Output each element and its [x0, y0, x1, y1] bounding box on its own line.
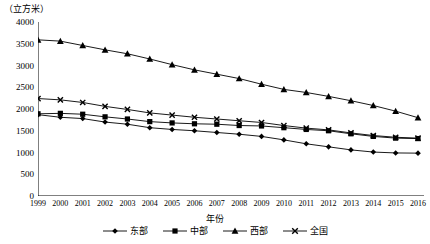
- y-axis-tick-label: 2000: [4, 105, 34, 114]
- chart-legend: 东部中部西部全国: [0, 226, 430, 236]
- x-axis-tick-label: 2009: [254, 199, 270, 208]
- x-axis-tick-label: 2010: [276, 199, 292, 208]
- data-point-diamond: [236, 131, 242, 137]
- data-point-diamond: [214, 130, 220, 136]
- x-axis-tick-label: 2015: [388, 199, 404, 208]
- x-axis-tick-label: 2000: [52, 199, 68, 208]
- x-axis-tick-label: 2014: [365, 199, 381, 208]
- legend-item-中部[interactable]: 中部: [162, 226, 208, 236]
- series-西部: [38, 36, 421, 120]
- x-axis-tick-label: 2012: [321, 199, 337, 208]
- data-point-diamond: [370, 149, 376, 155]
- y-axis-tick-label: 1500: [4, 126, 34, 135]
- legend-label: 全国: [310, 227, 328, 236]
- legend-label: 西部: [250, 227, 268, 236]
- y-axis-tick-label: 3000: [4, 61, 34, 70]
- y-axis-tick-label: 3500: [4, 39, 34, 48]
- legend-label: 中部: [190, 227, 208, 236]
- data-point-diamond: [348, 147, 354, 153]
- series-全国: [38, 96, 421, 141]
- data-point-diamond: [303, 141, 309, 147]
- legend-marker-square-icon: [162, 226, 188, 236]
- data-point-diamond: [281, 137, 287, 143]
- series-东部: [38, 112, 421, 156]
- data-point-square: [58, 111, 63, 116]
- legend-marker-cross-icon: [282, 226, 308, 236]
- x-axis-tick-label: 2003: [119, 199, 135, 208]
- data-point-square: [147, 119, 152, 124]
- data-point-square: [38, 111, 41, 116]
- y-axis-tick-label: 4000: [4, 18, 34, 27]
- data-point-square: [172, 228, 177, 233]
- data-point-diamond: [147, 125, 153, 131]
- plot-svg: [38, 22, 424, 196]
- data-point-diamond: [326, 144, 332, 150]
- series-line: [38, 113, 418, 138]
- data-point-diamond: [192, 128, 198, 134]
- y-axis-tick-label: 2500: [4, 83, 34, 92]
- x-axis-title: 年份: [0, 212, 430, 225]
- data-point-diamond: [125, 121, 131, 127]
- x-axis-tick-label: 2005: [164, 199, 180, 208]
- data-point-square: [125, 116, 130, 121]
- x-axis-tick-label: 2006: [186, 199, 202, 208]
- x-axis-tick-label: 2002: [97, 199, 113, 208]
- data-point-square: [237, 123, 242, 128]
- x-axis-tick-label: 1999: [30, 199, 46, 208]
- legend-label: 东部: [130, 227, 148, 236]
- series-line: [38, 40, 418, 118]
- line-chart: （立方米） 05001000150020002500300035004000 1…: [0, 0, 430, 244]
- data-point-diamond: [393, 150, 399, 156]
- plot-area: [38, 22, 424, 196]
- data-point-diamond: [102, 119, 108, 125]
- data-point-diamond: [259, 134, 265, 140]
- legend-marker-triangle-icon: [222, 226, 248, 236]
- data-point-diamond: [415, 150, 421, 156]
- data-series-group: [38, 36, 421, 156]
- legend-marker-diamond-icon: [102, 226, 128, 236]
- data-point-square: [214, 122, 219, 127]
- x-axis-tick-labels: 1999200020012002200320042005200620072008…: [0, 199, 430, 213]
- x-axis-tick-label: 2016: [410, 199, 426, 208]
- data-point-diamond: [169, 127, 175, 133]
- x-axis-tick-label: 2004: [142, 199, 158, 208]
- y-axis-tick-label: 500: [4, 170, 34, 179]
- y-axis-tick-label: 1000: [4, 148, 34, 157]
- data-point-square: [102, 114, 107, 119]
- series-中部: [38, 111, 421, 141]
- legend-item-西部[interactable]: 西部: [222, 226, 268, 236]
- legend-item-东部[interactable]: 东部: [102, 226, 148, 236]
- data-point-diamond: [112, 228, 118, 234]
- x-axis-tick-label: 2013: [343, 199, 359, 208]
- data-point-square: [80, 112, 85, 117]
- data-point-square: [170, 120, 175, 125]
- legend-item-全国[interactable]: 全国: [282, 226, 328, 236]
- x-axis-tick-label: 2008: [231, 199, 247, 208]
- x-axis-tick-label: 2007: [209, 199, 225, 208]
- data-point-triangle: [38, 36, 41, 42]
- x-axis-tick-label: 2011: [298, 199, 314, 208]
- data-point-square: [192, 121, 197, 126]
- series-line: [38, 99, 418, 139]
- x-axis-tick-label: 2001: [75, 199, 91, 208]
